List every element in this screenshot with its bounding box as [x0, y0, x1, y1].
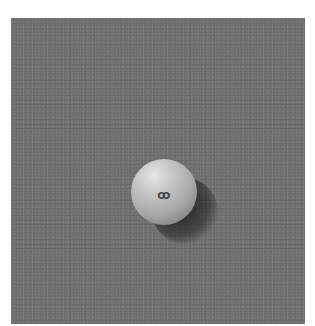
sphere: ꝏ	[131, 159, 197, 225]
sphere-emblem: ꝏ	[156, 185, 172, 205]
photo: ꝏ	[11, 18, 305, 324]
